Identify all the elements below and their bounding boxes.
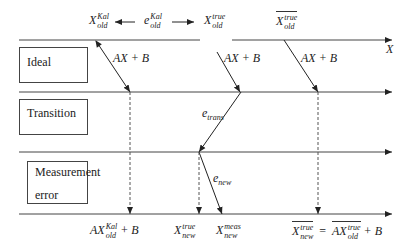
- ideal-label: Ideal: [27, 55, 51, 70]
- label-x-new-true: Xtruenew: [174, 222, 195, 240]
- label-x-old-true: Xtrueold: [204, 12, 225, 30]
- measurement-error-box: Measurement error: [27, 161, 88, 204]
- label-e-old-kal: eKalold: [144, 12, 162, 30]
- label-e-new: enew: [213, 171, 231, 186]
- transition-label: Transition: [27, 106, 76, 121]
- measurement-label: Measurement: [35, 165, 100, 180]
- label-x-old-kal: XKalold: [89, 12, 109, 30]
- diagram-canvas: Ideal Transition Measurement error X XKa…: [0, 0, 412, 248]
- label-equation: Xtruenew = AXtrueold + B: [292, 221, 382, 241]
- ideal-box: Ideal: [19, 47, 88, 83]
- label-ax-b-1: AX + B: [113, 51, 149, 66]
- label-ax-b-3: AX + B: [301, 51, 337, 66]
- label-e-trans: etrans: [202, 106, 224, 121]
- label-ax-b-2: AX + B: [224, 51, 260, 66]
- label-x-new-meas: Xmeasnew: [216, 222, 241, 240]
- label-x-old-true-bar: Xtrueold: [276, 11, 297, 31]
- label-ax-old-kal-b: AXKalold + B: [90, 222, 139, 240]
- x-axis-label: X: [386, 42, 393, 57]
- transition-box: Transition: [19, 99, 88, 135]
- ax-b-arrow-3: [284, 40, 318, 92]
- error-label: error: [35, 188, 58, 203]
- ax-b-arrow-1: [96, 41, 130, 92]
